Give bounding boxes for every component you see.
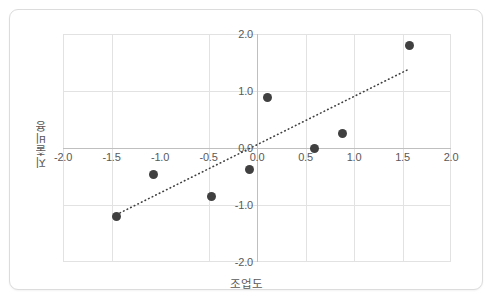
y-tick-label: 2.0 xyxy=(227,28,253,40)
data-point xyxy=(263,93,272,102)
x-tick-label: -0.5 xyxy=(199,151,217,163)
y-tick-label: -1.0 xyxy=(227,199,253,211)
x-tick-label: -1.5 xyxy=(102,151,120,163)
x-tick-label: -1.0 xyxy=(151,151,169,163)
scatter-plot-area xyxy=(63,34,451,262)
y-tick-label: -2.0 xyxy=(227,256,253,268)
y-axis-title: 지출비용 xyxy=(34,120,50,168)
x-tick-label: 1.5 xyxy=(395,151,410,163)
y-tick-label: 0.0 xyxy=(227,142,253,154)
y-tick-label: 1.0 xyxy=(227,85,253,97)
x-tick-label: 1.0 xyxy=(347,151,362,163)
data-point xyxy=(207,192,216,201)
data-point xyxy=(149,170,158,179)
x-tick-label: 2.0 xyxy=(444,151,459,163)
chart-card: -2.0-1.5-1.0-0.50.00.51.01.52.0 2.01.00.… xyxy=(9,9,483,290)
data-point xyxy=(405,41,414,50)
x-tick-label: 0.5 xyxy=(298,151,313,163)
data-point xyxy=(338,129,347,138)
x-axis-title: 조업도 xyxy=(10,275,482,291)
data-point xyxy=(245,165,254,174)
data-point xyxy=(112,212,121,221)
data-point-series xyxy=(63,34,451,262)
x-tick-label: -2.0 xyxy=(54,151,72,163)
